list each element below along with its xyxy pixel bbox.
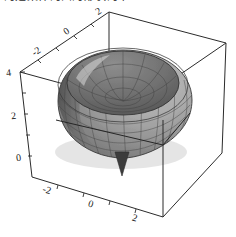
x-tick-label-0: 0 [87,198,95,210]
plot-3d-surface: 的是某件的面的形状的下 [0,0,236,237]
surface-plot-canvas: 4 2 0 -2 0 2 -2 0 2 [0,0,236,237]
surface-mesh [55,48,192,176]
z-tick-label-4: 4 [5,67,11,79]
x-tick-label-neg2: -2 [41,183,52,196]
y-tick-label-2: 2 [93,5,103,17]
y-tick-label-neg2: -2 [30,44,43,58]
x-tick-label-2: 2 [131,212,139,224]
z-tick-label-0: 0 [15,152,21,164]
cut-off-header-text: 的是某件的面的形状的下 [4,0,129,1]
z-tick-label-2: 2 [10,110,16,122]
y-tick-label-0: 0 [61,25,71,37]
